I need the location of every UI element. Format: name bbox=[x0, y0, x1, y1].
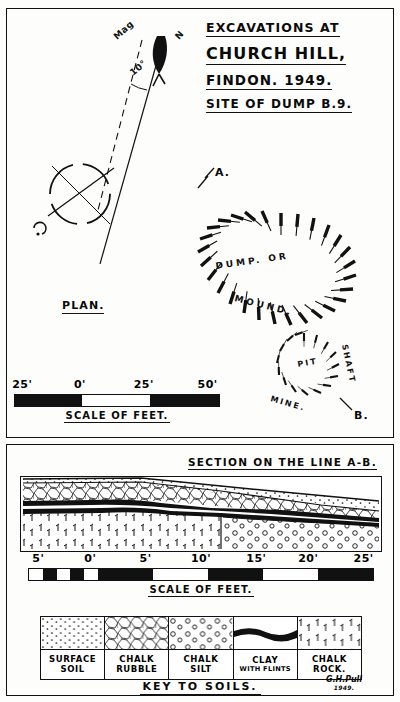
mound-label-line-1: DUMP. OR bbox=[215, 251, 289, 271]
key-to-soils: SURFACE SOIL CHALK RUBBLE CHALK bbox=[40, 616, 362, 680]
key-swatch-clay-with-flints bbox=[234, 617, 297, 650]
key-swatch-surface-soil bbox=[41, 617, 104, 650]
key-item-chalk-rubble: CHALK RUBBLE bbox=[105, 617, 169, 679]
section-scale-tick-4: 15' bbox=[246, 552, 266, 565]
plan-scale-tick-0: 25' bbox=[12, 378, 32, 391]
signature: G.H.Pull 1949. bbox=[326, 676, 362, 691]
title-block: EXCAVATIONS AT CHURCH HILL, FINDON. 1949… bbox=[206, 20, 386, 120]
section-scale-tick-6: 25' bbox=[354, 552, 374, 565]
station-cross-1 bbox=[48, 168, 114, 216]
key-item-surface-soil: SURFACE SOIL bbox=[41, 617, 105, 679]
section-scale-bar: 5' 0' 5' 10' 15' 20' 25' SCALE OF FEET. bbox=[28, 552, 374, 597]
section-scale-tick-2: 5' bbox=[140, 552, 152, 565]
key-caption-text: KEY TO SOILS. bbox=[140, 680, 261, 695]
plan-scale-tick-3: 50' bbox=[198, 378, 218, 391]
section-scale-tick-0: 5' bbox=[32, 552, 44, 565]
section-scale-tick-3: 10' bbox=[191, 552, 211, 565]
key-item-clay-with-flints: CLAY WITH FLINTS bbox=[234, 617, 298, 679]
section-scale-tick-5: 20' bbox=[298, 552, 318, 565]
key-item-chalk-silt: CHALK SILT bbox=[169, 617, 233, 679]
key-swatch-chalk-rock bbox=[298, 617, 361, 650]
signature-year: 1949. bbox=[326, 685, 362, 691]
plan-caption: PLAN. bbox=[62, 299, 104, 314]
section-scale-graphic bbox=[28, 568, 374, 581]
section-scale-tick-1: 0' bbox=[84, 552, 96, 565]
key-label-line2: ROCK. bbox=[313, 665, 346, 675]
section-title: SECTION ON THE LINE A-B. bbox=[188, 456, 377, 470]
station-cross-2 bbox=[52, 166, 110, 224]
shaft-label-shaft: SHAFT bbox=[340, 344, 357, 385]
title-line-3: FINDON. 1949. bbox=[206, 72, 332, 90]
section-drawing bbox=[20, 476, 382, 552]
title-line-2: CHURCH HILL, bbox=[206, 44, 346, 65]
key-swatch-chalk-rubble bbox=[105, 617, 168, 650]
station-terminus-mark bbox=[34, 222, 46, 234]
plan-scale-tick-1: 0' bbox=[74, 378, 86, 391]
section-endpoint-b-label: B. bbox=[354, 409, 369, 422]
compass-declination-label: 10° bbox=[128, 58, 149, 78]
survey-station-marker bbox=[22, 142, 142, 252]
mound-label-line-2: MOUND. bbox=[234, 293, 295, 317]
station-dot bbox=[36, 232, 39, 235]
shaft-label-mine: MINE. bbox=[269, 394, 306, 410]
plan-scale-bar: 25' 0' 25' 50' SCALE OF FEET. bbox=[14, 378, 220, 423]
key-label-line2: WITH FLINTS bbox=[240, 666, 291, 674]
compass-north-label: N bbox=[173, 29, 186, 42]
plan-scale-caption: SCALE OF FEET. bbox=[64, 410, 171, 423]
signature-name: G.H.Pull bbox=[326, 675, 362, 684]
drawing-sheet: EXCAVATIONS AT CHURCH HILL, FINDON. 1949… bbox=[0, 0, 400, 702]
key-label-line2: SILT bbox=[190, 665, 212, 675]
section-scale-caption: SCALE OF FEET. bbox=[148, 584, 255, 597]
key-item-chalk-rock: CHALK ROCK. bbox=[298, 617, 361, 679]
north-arrow-tail bbox=[153, 74, 165, 86]
plan-scale-ticks: 25' 0' 25' 50' bbox=[14, 378, 220, 394]
key-label-line2: RUBBLE bbox=[116, 665, 157, 675]
declination-arc bbox=[131, 84, 147, 90]
title-line-1: EXCAVATIONS AT bbox=[206, 20, 340, 37]
key-label-line2: SOIL bbox=[60, 665, 84, 675]
layer-chalk-silt bbox=[221, 515, 381, 551]
shaft-label-pit: PIT bbox=[297, 357, 319, 369]
section-scale-ticks: 5' 0' 5' 10' 15' 20' 25' bbox=[28, 552, 374, 568]
key-swatch-chalk-silt bbox=[169, 617, 232, 650]
title-line-4: SITE OF DUMP B.9. bbox=[206, 97, 352, 113]
section-endpoint-a-label: A. bbox=[215, 166, 230, 179]
plan-scale-tick-2: 25' bbox=[134, 378, 154, 391]
compass-mag-label: Mag bbox=[112, 19, 136, 42]
key-caption: KEY TO SOILS. bbox=[40, 680, 360, 695]
plan-scale-graphic bbox=[14, 394, 220, 407]
